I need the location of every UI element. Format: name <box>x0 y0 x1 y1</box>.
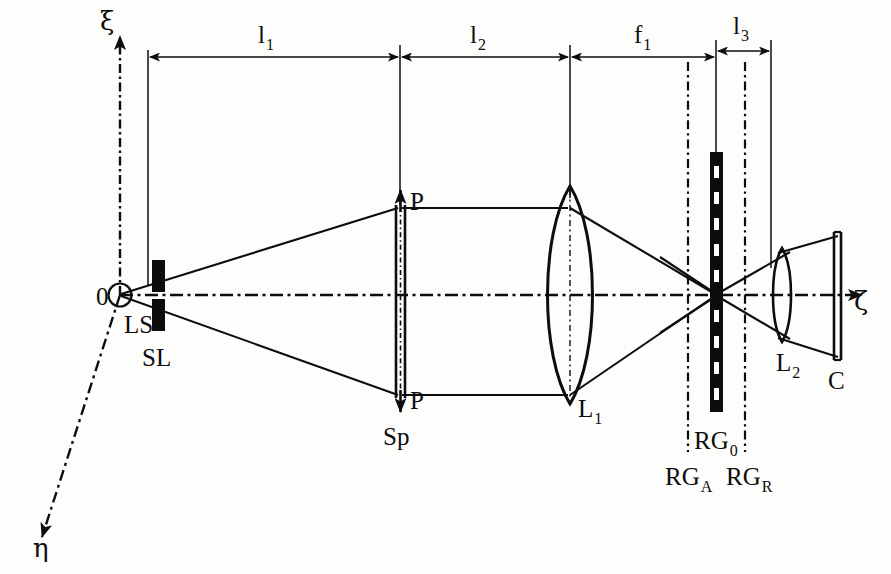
axis-label-eta: η <box>33 535 49 561</box>
label-RGA-base: RG <box>665 463 700 490</box>
label-L1-base: L <box>578 395 593 422</box>
axis-eta <box>42 295 120 537</box>
label-SL: SL <box>142 345 171 370</box>
dim-l2-sub: 2 <box>478 36 486 53</box>
label-polarization-up: P <box>410 189 424 214</box>
label-Sp: Sp <box>383 424 409 449</box>
label-RGR-base: RG <box>726 463 761 490</box>
dim-label-f1: f1 <box>634 22 650 47</box>
dim-l3-sub: 3 <box>741 27 749 44</box>
label-L1: L1 <box>578 396 601 421</box>
label-RGA-sub: A <box>701 478 713 495</box>
component-Sp <box>396 205 405 398</box>
dim-l3-base: l <box>733 12 740 39</box>
label-L1-sub: 1 <box>594 410 602 427</box>
ray-bundle <box>121 208 838 395</box>
dimension-lines <box>150 51 769 57</box>
origin-label: 0 <box>96 284 109 309</box>
label-RG0: RG0 <box>694 428 737 453</box>
component-RG0 <box>710 152 723 412</box>
label-C: C <box>828 368 845 393</box>
dim-f1-sub: 1 <box>643 36 651 53</box>
label-L2: L2 <box>776 350 799 375</box>
label-polarization-down: P <box>410 388 424 413</box>
label-LS: LS <box>124 312 153 337</box>
label-L2-sub: 2 <box>792 364 800 381</box>
optical-system-figure: ξ ζ η 0 l1 l2 f1 l3 LS SL Sp L1 RG0 RGA … <box>0 0 891 574</box>
dim-label-l1: l1 <box>258 22 273 47</box>
dimension-leaders <box>148 40 771 285</box>
dim-l2-base: l <box>470 21 477 48</box>
dim-l1-sub: 1 <box>266 36 274 53</box>
axis-label-zeta: ζ <box>854 288 868 314</box>
axis-label-xi: ξ <box>100 8 114 34</box>
label-RG0-base: RG <box>694 427 729 454</box>
label-RGR: RGR <box>726 464 771 489</box>
dim-label-l3: l3 <box>733 13 748 38</box>
label-L2-base: L <box>776 349 791 376</box>
label-RGA: RGA <box>665 464 711 489</box>
label-RG0-sub: 0 <box>730 442 738 459</box>
dim-l1-base: l <box>258 21 265 48</box>
dim-label-l2: l2 <box>470 22 485 47</box>
dim-f1-base: f <box>634 21 642 48</box>
label-RGR-sub: R <box>762 478 773 495</box>
